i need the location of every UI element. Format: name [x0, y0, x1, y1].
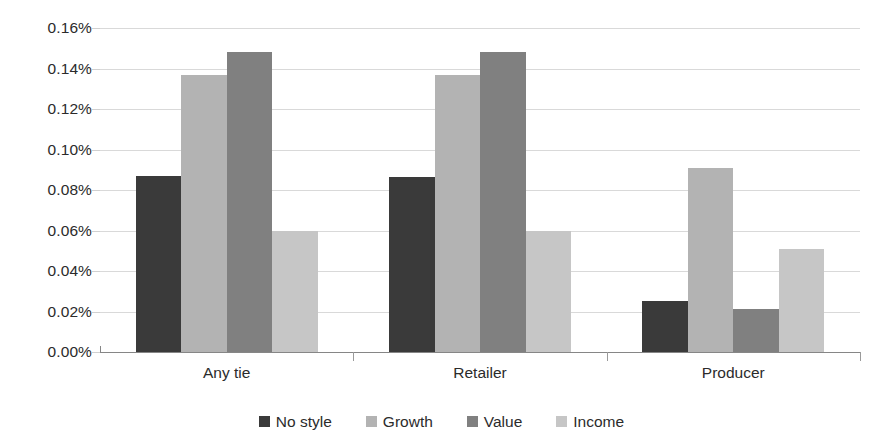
x-axis-line [100, 352, 860, 353]
legend-label: Income [573, 414, 624, 430]
y-axis-tick-mark [92, 109, 100, 110]
bar-group [136, 28, 318, 352]
legend-label: Growth [383, 414, 433, 430]
bar[interactable] [272, 231, 318, 353]
y-axis-tick-label: 0.06% [0, 223, 92, 239]
bar-chart: 0.00%0.02%0.04%0.06%0.08%0.10%0.12%0.14%… [0, 0, 883, 444]
y-axis-tick-label: 0.00% [0, 344, 92, 360]
x-axis-category-separator [353, 352, 354, 361]
bar[interactable] [526, 231, 572, 353]
y-axis-tick-label: 0.16% [0, 20, 92, 36]
y-axis-tick-mark [92, 190, 100, 191]
x-axis-end-tick [860, 352, 861, 361]
legend-item[interactable]: Value [467, 414, 523, 430]
bar[interactable] [227, 52, 273, 352]
legend-item[interactable]: Income [556, 414, 624, 430]
y-axis-tick-mark [92, 352, 100, 353]
legend-swatch-icon [259, 416, 270, 427]
bar[interactable] [642, 301, 688, 352]
legend-swatch-icon [556, 416, 567, 427]
bar[interactable] [480, 52, 526, 352]
bar-group [642, 28, 824, 352]
legend-item[interactable]: Growth [366, 414, 433, 430]
y-axis-tick-mark [92, 231, 100, 232]
bar[interactable] [181, 75, 227, 352]
x-axis-category-label: Retailer [353, 364, 606, 381]
legend-item[interactable]: No style [259, 414, 332, 430]
y-axis-tick-label: 0.10% [0, 142, 92, 158]
chart-legend: No styleGrowthValueIncome [0, 414, 883, 430]
legend-swatch-icon [467, 416, 478, 427]
bar-group-bars [136, 28, 318, 352]
bar[interactable] [389, 177, 435, 352]
y-axis-tick-mark [92, 69, 100, 70]
y-axis-origin-tick [100, 346, 101, 353]
y-axis-tick-label: 0.02% [0, 304, 92, 320]
y-axis-tick-label: 0.12% [0, 101, 92, 117]
bar-group-bars [642, 28, 824, 352]
y-axis-tick-mark [92, 312, 100, 313]
y-axis-labels: 0.00%0.02%0.04%0.06%0.08%0.10%0.12%0.14%… [0, 0, 92, 444]
y-axis-tick-label: 0.04% [0, 263, 92, 279]
plot-area [100, 28, 860, 352]
legend-label: No style [276, 414, 332, 430]
y-axis-tick-mark [92, 271, 100, 272]
bar[interactable] [435, 75, 481, 352]
legend-label: Value [484, 414, 523, 430]
bar[interactable] [733, 309, 779, 352]
x-axis-category-label: Any tie [100, 364, 353, 381]
y-axis-tick-label: 0.14% [0, 61, 92, 77]
legend-swatch-icon [366, 416, 377, 427]
bar[interactable] [688, 168, 734, 352]
bar[interactable] [136, 176, 182, 352]
x-axis-category-label: Producer [607, 364, 860, 381]
y-axis-tick-label: 0.08% [0, 182, 92, 198]
x-axis-category-separator [607, 352, 608, 361]
bar[interactable] [779, 249, 825, 352]
y-axis-tick-mark [92, 28, 100, 29]
bar-group-bars [389, 28, 571, 352]
y-axis-tick-mark [92, 150, 100, 151]
bar-group [389, 28, 571, 352]
